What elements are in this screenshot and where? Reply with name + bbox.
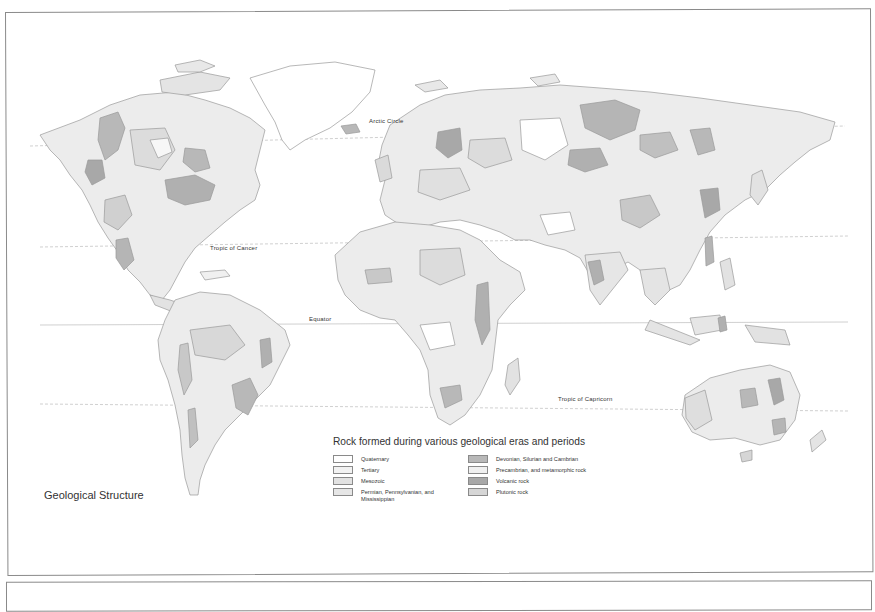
tropic-of-cancer-label: Tropic of Cancer (210, 245, 257, 251)
swatch-precambrian (468, 466, 488, 474)
legend-item-quaternary: Quaternary (333, 455, 468, 466)
swatch-volcanic (468, 477, 488, 485)
legend-item-precambrian: Precambrian, and metamorphic rock (468, 466, 603, 477)
swatch-permian (333, 488, 353, 496)
legend-item-volcanic: Volcanic rock (468, 477, 603, 488)
legend-item-tertiary: Tertiary (333, 466, 468, 477)
legend-label: Mesozoic (361, 477, 385, 485)
legend-item-permian: Permian, Pennsylvanian, and Mississippia… (333, 488, 468, 504)
legend-label: Volcanic rock (496, 477, 529, 485)
swatch-quaternary (333, 455, 353, 463)
legend-left-column: Quaternary Tertiary Mesozoic Permian, Pe… (333, 455, 468, 504)
north-america (40, 92, 265, 300)
swatch-plutonic (468, 488, 488, 496)
map-title: Geological Structure (44, 489, 144, 501)
equator-label: Equator (309, 316, 331, 322)
legend-title: Rock formed during various geological er… (333, 436, 633, 447)
legend-label: Devonian, Silurian and Cambrian (496, 455, 578, 463)
south-america (158, 292, 290, 495)
swatch-devonian (468, 455, 488, 463)
legend-label: Precambrian, and metamorphic rock (496, 466, 586, 474)
legend-label: Tertiary (361, 466, 379, 474)
legend-label: Plutonic rock (496, 488, 528, 496)
swatch-mesozoic (333, 477, 353, 485)
legend-label: Quaternary (361, 455, 389, 463)
legend-item-mesozoic: Mesozoic (333, 477, 468, 488)
legend-right-column: Devonian, Silurian and Cambrian Precambr… (468, 455, 603, 504)
legend-label: Permian, Pennsylvanian, and Mississippia… (361, 488, 441, 503)
swatch-tertiary (333, 466, 353, 474)
legend-item-plutonic: Plutonic rock (468, 488, 603, 499)
greenland (250, 62, 375, 150)
tropic-of-capricorn-label: Tropic of Capricorn (558, 396, 613, 402)
legend: Rock formed during various geological er… (333, 436, 633, 504)
legend-item-devonian: Devonian, Silurian and Cambrian (468, 455, 603, 466)
arctic-circle-label: Arctic Circle (369, 118, 404, 124)
